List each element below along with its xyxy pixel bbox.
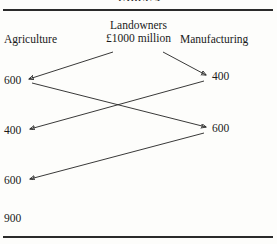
landowners-to-manufacturing-400 (163, 52, 206, 75)
manufacturing-600-to-agriculture-600 (30, 133, 204, 179)
landowners-to-agriculture-600 (29, 52, 113, 79)
flow-arrows (0, 0, 277, 244)
agriculture-600-to-manufacturing-600 (32, 83, 206, 127)
circular-flow-diagram: TABLE 4 Agriculture Landowners £1000 mil… (0, 0, 277, 244)
manufacturing-400-to-agriculture-400 (30, 81, 204, 129)
